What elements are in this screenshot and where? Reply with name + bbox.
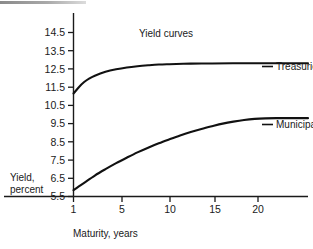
y-axis-title-line1: Yield, <box>10 172 35 183</box>
x-tick-label: 5 <box>119 203 125 215</box>
x-tick-label: 10 <box>164 203 176 215</box>
y-tick-label: 14.5 <box>45 26 66 38</box>
x-tick-label: 1 <box>71 203 77 215</box>
y-axis-tick-labels: 5.5 6.5 7.5 8.5 9.5 10.5 11.5 12.5 13.5 … <box>45 26 66 202</box>
x-axis-tick-labels: 1 5 10 15 20 <box>71 203 264 215</box>
y-tick-label: 9.5 <box>50 117 65 129</box>
yield-curves-chart: Yield curves 5.5 6.5 7.5 8.5 9.5 10.5 1 <box>0 0 313 249</box>
series-line-municipals <box>74 118 309 190</box>
y-tick-label: 13.5 <box>45 45 66 57</box>
x-tick-label: 15 <box>209 203 221 215</box>
y-tick-label: 10.5 <box>45 99 66 111</box>
x-tick-label: 20 <box>252 203 264 215</box>
x-axis-ticks <box>74 197 259 203</box>
series-label-treasuries: Treasuries <box>276 61 313 72</box>
series-label-municipals: Municipals <box>276 119 313 130</box>
y-axis-title-line2: percent <box>10 184 44 195</box>
yield-curves-figure: Yield curves 5.5 6.5 7.5 8.5 9.5 10.5 1 <box>0 0 313 249</box>
y-axis-ticks <box>68 33 74 197</box>
series-line-treasuries <box>74 63 309 93</box>
chart-title: Yield curves <box>139 28 193 39</box>
y-tick-label: 12.5 <box>45 63 66 75</box>
y-tick-label: 11.5 <box>45 81 65 93</box>
y-tick-label: 8.5 <box>50 136 65 148</box>
x-axis-title: Maturity, years <box>73 228 138 239</box>
y-tick-label: 7.5 <box>50 154 65 166</box>
y-axis-title: Yield, percent <box>10 172 44 195</box>
y-tick-label: 6.5 <box>50 172 65 184</box>
scan-edge-bar <box>0 1 86 4</box>
